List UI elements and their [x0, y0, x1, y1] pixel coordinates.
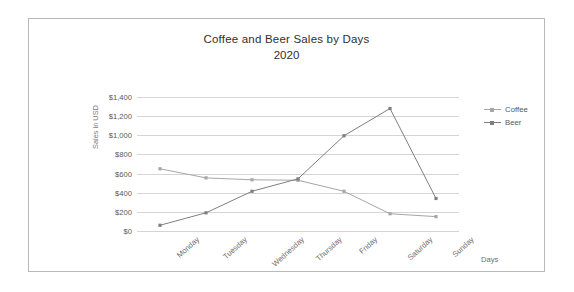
data-point-marker	[388, 212, 391, 215]
x-axis-tick-label: Thursday	[314, 235, 344, 263]
y-axis-tick-label: $800	[115, 150, 132, 159]
legend-swatch-icon	[484, 105, 501, 114]
data-series-layer	[137, 97, 459, 231]
y-axis-tick-label: $0	[124, 227, 132, 236]
data-point-marker	[250, 178, 253, 181]
x-axis-tick-label: Friday	[357, 235, 379, 256]
y-axis-tick-label: $400	[115, 188, 132, 197]
x-axis-tick-label: Tuesday	[221, 235, 248, 261]
legend-label: Coffee	[505, 105, 528, 114]
series-line-beer	[160, 108, 436, 225]
y-axis-tick-label: $1,000	[109, 131, 132, 140]
legend-item-beer[interactable]: Beer	[484, 117, 564, 128]
y-axis-tick-label: $1,400	[109, 93, 132, 102]
chart-container: Coffee and Beer Sales by Days 2020 Sales…	[28, 18, 545, 272]
chart-title: Coffee and Beer Sales by Days	[29, 31, 544, 47]
plot-area: $0$200$400$600$800$1,000$1,200$1,400 Mon…	[137, 97, 459, 231]
chart-subtitle: 2020	[29, 47, 544, 63]
data-point-marker	[204, 211, 207, 214]
data-point-marker	[158, 224, 161, 227]
y-axis-tick-label: $600	[115, 169, 132, 178]
legend-item-coffee[interactable]: Coffee	[484, 104, 564, 115]
y-axis-tick-label: $200	[115, 207, 132, 216]
data-point-marker	[250, 190, 253, 193]
y-axis-tick-label: $1,200	[109, 112, 132, 121]
data-point-marker	[296, 177, 299, 180]
y-axis-title: Sales in USD	[91, 105, 100, 149]
chart-legend: CoffeeBeer	[484, 104, 564, 130]
x-axis-tick-label: Sunday	[451, 235, 476, 259]
x-axis-tick-label: Saturday	[406, 235, 435, 262]
legend-swatch-icon	[484, 118, 501, 127]
data-point-marker	[158, 167, 161, 170]
series-line-coffee	[160, 169, 436, 217]
gridline	[137, 231, 459, 232]
data-point-marker	[342, 190, 345, 193]
x-axis-tick-label: Wednesday	[270, 235, 306, 268]
data-point-marker	[342, 134, 345, 137]
x-axis-tick-label: Monday	[175, 235, 201, 260]
legend-label: Beer	[505, 118, 521, 127]
data-point-marker	[204, 176, 207, 179]
data-point-marker	[434, 197, 437, 200]
data-point-marker	[388, 107, 391, 110]
chart-title-block: Coffee and Beer Sales by Days 2020	[29, 31, 544, 63]
data-point-marker	[434, 215, 437, 218]
x-axis-title: Days	[481, 255, 498, 264]
